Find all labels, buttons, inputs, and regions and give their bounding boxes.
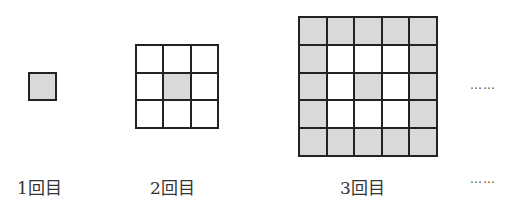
empty-cell — [327, 100, 355, 128]
shaded-cell — [409, 73, 437, 101]
empty-cell — [382, 73, 410, 101]
shaded-cell — [409, 128, 437, 156]
empty-cell — [136, 45, 163, 73]
shaded-cell — [354, 128, 382, 156]
shaded-cell — [299, 17, 327, 45]
shaded-cell — [299, 100, 327, 128]
empty-cell — [191, 100, 218, 128]
empty-cell — [382, 100, 410, 128]
continuation-dots-label: …… — [470, 172, 496, 186]
empty-cell — [191, 73, 218, 101]
label-step-1: 1回目 — [17, 174, 62, 199]
empty-cell — [354, 45, 382, 73]
label-step-2: 2回目 — [150, 174, 195, 199]
empty-cell — [136, 100, 163, 128]
continuation-dots-figure: …… — [470, 78, 496, 92]
shaded-cell — [382, 128, 410, 156]
shaded-cell — [354, 73, 382, 101]
empty-cell — [163, 45, 190, 73]
shaded-cell — [327, 128, 355, 156]
empty-cell — [327, 73, 355, 101]
shaded-cell — [163, 73, 190, 101]
empty-cell — [163, 100, 190, 128]
empty-cell — [354, 100, 382, 128]
shaded-cell — [409, 100, 437, 128]
shaded-cell — [382, 17, 410, 45]
label-step-3: 3回目 — [340, 174, 385, 199]
shaded-cell — [299, 128, 327, 156]
figure-step-1 — [28, 72, 57, 101]
empty-cell — [136, 73, 163, 101]
empty-cell — [191, 45, 218, 73]
shaded-cell — [299, 45, 327, 73]
figure-step-2 — [135, 44, 219, 129]
empty-cell — [327, 45, 355, 73]
shaded-cell — [299, 73, 327, 101]
shaded-cell — [354, 17, 382, 45]
shaded-cell — [327, 17, 355, 45]
shaded-cell — [409, 45, 437, 73]
shaded-cell — [409, 17, 437, 45]
empty-cell — [382, 45, 410, 73]
shaded-cell — [29, 73, 56, 100]
figure-step-3 — [298, 16, 438, 157]
